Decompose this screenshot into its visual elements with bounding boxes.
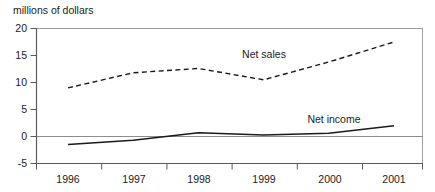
series-line-net-sales [68,42,394,88]
series-annotation-net-income: Net income [307,113,360,125]
y-tick-label-15: 15 [15,49,27,61]
line-chart-plot: 20 15 10 5 0 -5 1996 1997 1998 1999 2000… [0,0,435,192]
series-line-net-income [68,126,394,145]
x-tick-label-2001: 2001 [382,173,406,185]
y-axis-tick-labels: 20 15 10 5 0 -5 [15,22,27,169]
chart-container: millions of dollars 20 15 10 5 0 -5 [0,0,435,192]
y-tick-label-minus5: -5 [18,157,27,169]
series-annotation-net-sales: Net sales [242,48,286,60]
y-tick-label-10: 10 [15,76,27,88]
x-tick-label-1997: 1997 [122,173,146,185]
y-tick-label-5: 5 [21,103,27,115]
x-tick-label-1996: 1996 [56,173,80,185]
x-tick-label-1998: 1998 [187,173,211,185]
x-axis-tick-labels: 1996 1997 1998 1999 2000 2001 [56,173,406,185]
x-tick-label-1999: 1999 [252,173,276,185]
x-axis-ticks [37,164,423,170]
y-axis-ticks [31,29,37,164]
y-tick-label-0: 0 [21,130,27,142]
x-tick-label-2000: 2000 [318,173,342,185]
y-tick-label-20: 20 [15,22,27,34]
